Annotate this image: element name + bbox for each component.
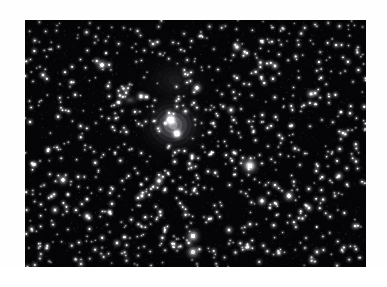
page-root	[0, 0, 387, 287]
astronomy-photo	[25, 20, 366, 267]
caption-area	[0, 267, 387, 287]
sky-field-canvas	[25, 20, 366, 267]
